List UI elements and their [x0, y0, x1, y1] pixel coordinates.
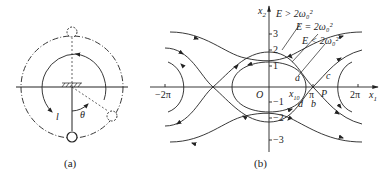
point-label-x10: x10 — [289, 89, 299, 101]
panel-b-phase-portrait — [150, 6, 378, 152]
x1-axis-label: x1 — [369, 90, 377, 103]
energy-label-greater: E > 2ω₀² — [276, 9, 312, 19]
point-label-P: P — [321, 89, 327, 99]
x-tick-2pi: 2π — [350, 90, 360, 100]
point-label-c: c — [326, 71, 330, 81]
origin-label: O — [256, 90, 263, 100]
point-label-b: b — [311, 99, 316, 109]
right-dashed-bob — [107, 111, 117, 121]
separatrix-upper — [165, 48, 362, 87]
x-tick-neg2pi: −2π — [155, 90, 171, 100]
top-dashed-bob — [67, 27, 77, 37]
dashed-diagonal-line — [72, 87, 108, 111]
rotation-orbit-lower — [170, 113, 362, 142]
rotation-arc-top — [76, 54, 104, 78]
separatrix-lower — [165, 87, 362, 126]
y-tick-3: 3 — [273, 29, 278, 39]
energy-label-equal: E = 2ω₀² — [296, 22, 332, 32]
panel-a-caption: (a) — [64, 158, 76, 169]
x2-axis-label: x2 — [258, 6, 266, 19]
y-tick-2: 2 — [273, 45, 278, 55]
energy-label-less: E < 2ω₀² — [302, 36, 338, 46]
y-tick-neg1: −1 — [273, 97, 284, 107]
pendulum-bob — [67, 132, 77, 142]
panel-a-pendulum — [16, 27, 128, 142]
panel-b-caption: (b) — [254, 158, 267, 169]
y-tick-neg3: −3 — [273, 135, 284, 145]
rotation-arc-full — [46, 54, 76, 72]
y-tick-1: 1 — [273, 61, 278, 71]
rotation-arc-left — [42, 72, 52, 112]
angle-theta-label: θ — [80, 110, 85, 120]
length-label: l — [56, 112, 59, 122]
rotation-arc-right — [104, 78, 106, 100]
y-tick-neg2: −2 — [273, 113, 284, 123]
point-label-a: a — [295, 73, 300, 83]
